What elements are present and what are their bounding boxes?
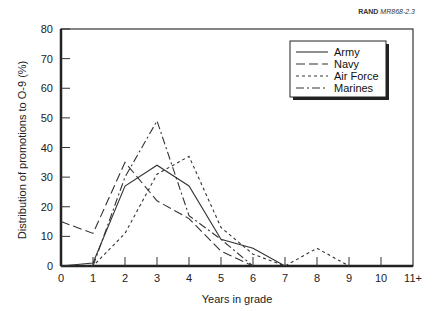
legend-item: Navy bbox=[334, 58, 360, 70]
y-axis: 01020304050607080 bbox=[41, 23, 70, 272]
y-tick-label: 0 bbox=[47, 260, 53, 272]
x-tick-label: 8 bbox=[314, 272, 320, 284]
x-tick-label: 5 bbox=[218, 272, 224, 284]
x-tick-label: 9 bbox=[346, 272, 352, 284]
legend: ArmyNavyAir ForceMarines bbox=[290, 41, 389, 100]
series-navy bbox=[61, 162, 253, 266]
line-chart: 01020304050607080 01234567891011+ Years … bbox=[0, 0, 440, 311]
y-tick-label: 50 bbox=[41, 112, 53, 124]
x-tick-label: 7 bbox=[282, 272, 288, 284]
y-tick-label: 60 bbox=[41, 82, 53, 94]
y-tick-label: 80 bbox=[41, 23, 53, 35]
y-tick-label: 70 bbox=[41, 53, 53, 65]
x-tick-label: 1 bbox=[90, 272, 96, 284]
y-tick-label: 30 bbox=[41, 171, 53, 183]
y-tick-label: 40 bbox=[41, 142, 53, 154]
series-marines bbox=[93, 121, 253, 266]
x-tick-label: 6 bbox=[250, 272, 256, 284]
series-lines bbox=[61, 121, 349, 266]
x-tick-label: 0 bbox=[58, 272, 64, 284]
x-axis-title: Years in grade bbox=[202, 293, 273, 305]
x-tick-label: 2 bbox=[122, 272, 128, 284]
y-tick-label: 10 bbox=[41, 230, 53, 242]
series-air-force bbox=[61, 156, 349, 266]
x-tick-label: 10 bbox=[375, 272, 387, 284]
legend-item: Army bbox=[334, 46, 360, 58]
y-axis-title: Distribution of promotions to O-9 (%) bbox=[16, 61, 28, 240]
legend-item: Air Force bbox=[334, 70, 379, 82]
x-tick-label: 11+ bbox=[404, 272, 422, 284]
x-axis: 01234567891011+ bbox=[58, 257, 422, 284]
y-tick-label: 20 bbox=[41, 201, 53, 213]
legend-item: Marines bbox=[334, 82, 374, 94]
x-tick-label: 4 bbox=[186, 272, 192, 284]
series-army bbox=[61, 165, 285, 266]
x-tick-label: 3 bbox=[154, 272, 160, 284]
